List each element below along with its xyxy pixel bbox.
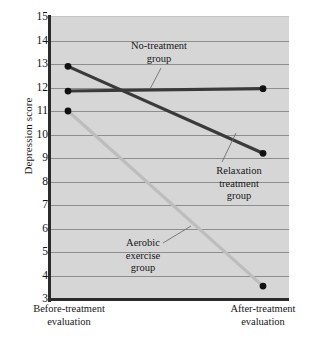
depression-score-line-chart: Depression score 1514131211109876543 No-… bbox=[0, 0, 309, 337]
y-tick-label-6: 6 bbox=[30, 223, 48, 235]
y-tick-label-10: 10 bbox=[30, 129, 48, 141]
x-tick-label-before-treatment: Before-treatment evaluation bbox=[10, 303, 128, 328]
annotation-relaxation-treatment-group: Relaxation treatment group bbox=[196, 165, 282, 203]
y-tick-label-9: 9 bbox=[30, 152, 48, 164]
y-tick-label-12: 12 bbox=[30, 82, 48, 94]
y-tick-label-5: 5 bbox=[30, 246, 48, 258]
annotation-no-treatment-group: No-treatment group bbox=[110, 40, 208, 65]
annotation-aerobic-exercise-group: Aerobic exercise group bbox=[104, 237, 182, 275]
gridline-10 bbox=[51, 135, 289, 136]
x-axis-spine bbox=[48, 298, 289, 301]
x-tick-label-after-treatment: After-treatment evaluation bbox=[204, 303, 309, 328]
gridline-12 bbox=[51, 88, 289, 89]
gridline-11 bbox=[51, 111, 289, 112]
y-tick-label-11: 11 bbox=[30, 105, 48, 117]
y-tick-label-15: 15 bbox=[30, 11, 48, 23]
y-tick-label-8: 8 bbox=[30, 176, 48, 188]
y-tick-label-7: 7 bbox=[30, 199, 48, 211]
gridline-6 bbox=[51, 229, 289, 230]
y-axis-tick-labels: 1514131211109876543 bbox=[26, 0, 48, 337]
y-tick-label-13: 13 bbox=[30, 58, 48, 70]
y-tick-label-4: 4 bbox=[30, 270, 48, 282]
gridline-4 bbox=[51, 276, 289, 277]
gridline-7 bbox=[51, 205, 289, 206]
gridline-9 bbox=[51, 158, 289, 159]
plot-top-edge bbox=[51, 16, 289, 17]
y-axis-spine bbox=[48, 15, 51, 302]
y-tick-label-14: 14 bbox=[30, 35, 48, 47]
